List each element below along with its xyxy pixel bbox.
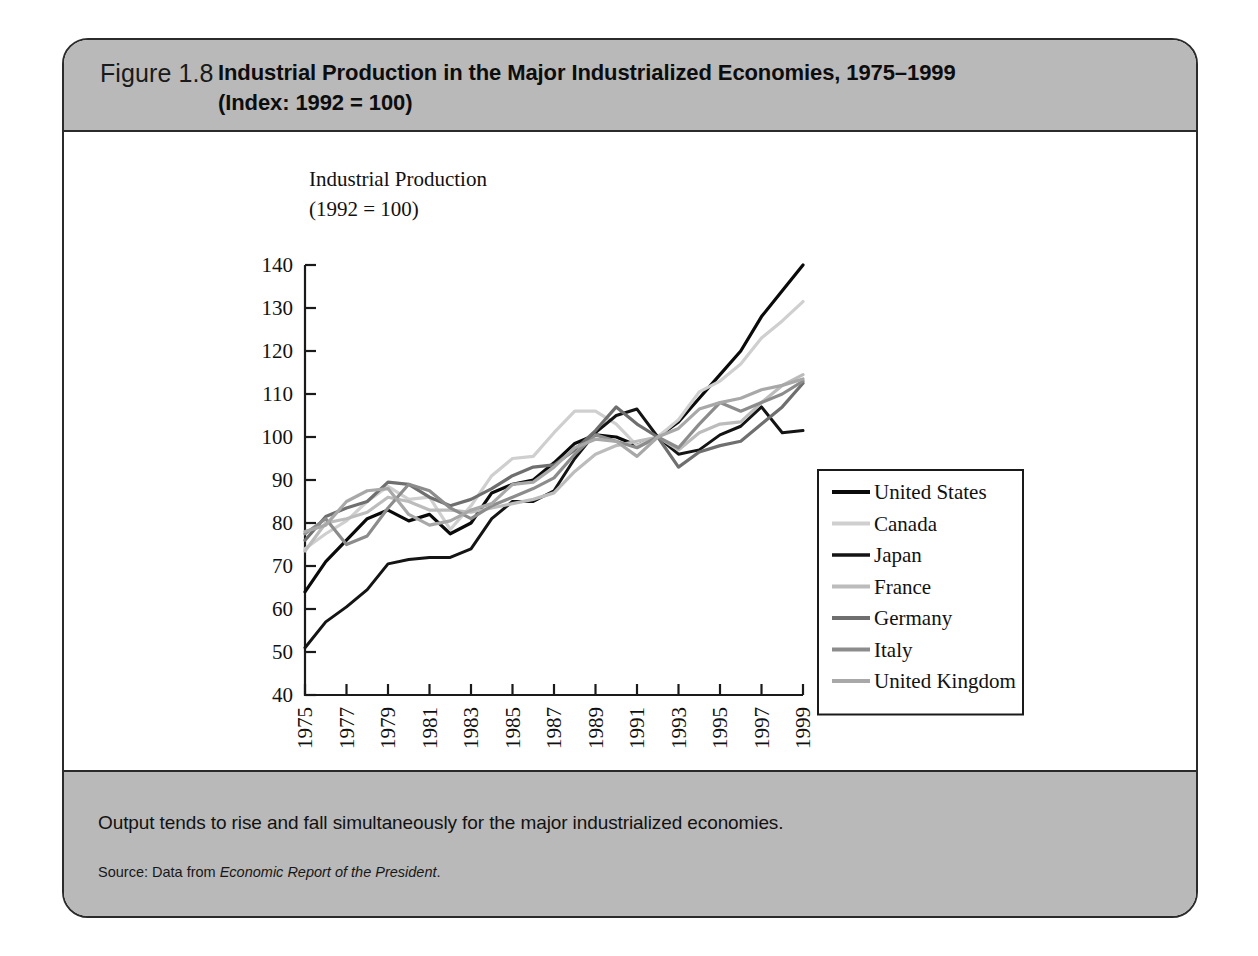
y-tick-label: 100 bbox=[262, 425, 294, 449]
axis-lines-group bbox=[305, 265, 803, 695]
legend-group[interactable]: United StatesCanadaJapanFranceGermanyIta… bbox=[818, 470, 1023, 715]
legend-label[interactable]: United Kingdom bbox=[874, 669, 1016, 693]
y-axis-title-line2: (1992 = 100) bbox=[309, 197, 419, 221]
series-line bbox=[305, 265, 803, 592]
source-prefix: Source: Data from bbox=[98, 864, 220, 880]
figure-number: Figure 1.8 bbox=[100, 58, 214, 88]
chart-plot-area: Industrial Production(1992 = 100) 405060… bbox=[64, 132, 1196, 822]
y-tick-label: 50 bbox=[272, 640, 293, 664]
figure-box: Figure 1.8 Industrial Production in the … bbox=[62, 38, 1198, 918]
x-tick-label: 1987 bbox=[542, 707, 566, 749]
y-axis-title-line1: Industrial Production bbox=[309, 167, 487, 191]
series-line bbox=[305, 379, 803, 532]
legend-label[interactable]: Germany bbox=[874, 606, 953, 630]
figure-title-line2: (Index: 1992 = 100) bbox=[218, 88, 956, 118]
y-tick-label: 60 bbox=[272, 597, 293, 621]
y-tick-label: 130 bbox=[262, 296, 294, 320]
x-tick-group: 1975197719791981198319851987198919911993… bbox=[293, 684, 815, 749]
y-tick-label: 110 bbox=[262, 382, 293, 406]
y-tick-label: 40 bbox=[272, 683, 293, 707]
x-tick-label: 1975 bbox=[293, 707, 317, 749]
y-tick-label: 70 bbox=[272, 554, 293, 578]
figure-header: Figure 1.8 Industrial Production in the … bbox=[64, 40, 1196, 132]
figure-caption: Output tends to rise and fall simultaneo… bbox=[98, 812, 1166, 834]
x-tick-label: 1983 bbox=[459, 707, 483, 749]
legend-label[interactable]: Italy bbox=[874, 638, 913, 662]
legend-label[interactable]: Canada bbox=[874, 512, 938, 536]
series-line bbox=[305, 302, 803, 549]
figure-header-inner: Figure 1.8 Industrial Production in the … bbox=[100, 58, 1176, 118]
series-lines-group bbox=[305, 265, 803, 648]
figure-source: Source: Data from Economic Report of the… bbox=[98, 864, 1166, 880]
x-tick-label: 1995 bbox=[708, 707, 732, 749]
figure-footer: Output tends to rise and fall simultaneo… bbox=[64, 770, 1196, 916]
y-tick-label: 120 bbox=[262, 339, 294, 363]
legend-label[interactable]: Japan bbox=[874, 543, 922, 567]
x-tick-label: 1991 bbox=[625, 707, 649, 749]
axis-lines bbox=[305, 265, 803, 695]
y-tick-label: 140 bbox=[262, 253, 294, 277]
x-tick-label: 1999 bbox=[791, 707, 815, 749]
legend-label[interactable]: France bbox=[874, 575, 931, 599]
x-tick-label: 1993 bbox=[667, 707, 691, 749]
x-tick-label: 1989 bbox=[584, 707, 608, 749]
figure-page: Figure 1.8 Industrial Production in the … bbox=[0, 0, 1258, 956]
line-chart: Industrial Production(1992 = 100) 405060… bbox=[64, 132, 1196, 822]
figure-title-line1: Industrial Production in the Major Indus… bbox=[218, 60, 956, 85]
x-tick-label: 1979 bbox=[376, 707, 400, 749]
y-axis-label-group: Industrial Production(1992 = 100) bbox=[309, 167, 487, 221]
legend-label[interactable]: United States bbox=[874, 480, 987, 504]
y-tick-group: 405060708090100110120130140 bbox=[262, 253, 317, 707]
y-tick-label: 90 bbox=[272, 468, 293, 492]
x-tick-label: 1977 bbox=[335, 707, 359, 749]
x-tick-label: 1985 bbox=[501, 707, 525, 749]
source-title: Economic Report of the President bbox=[220, 864, 437, 880]
x-tick-label: 1997 bbox=[750, 707, 774, 749]
source-suffix: . bbox=[437, 864, 441, 880]
y-tick-label: 80 bbox=[272, 511, 293, 535]
figure-title: Industrial Production in the Major Indus… bbox=[218, 58, 956, 118]
x-tick-label: 1981 bbox=[418, 707, 442, 749]
